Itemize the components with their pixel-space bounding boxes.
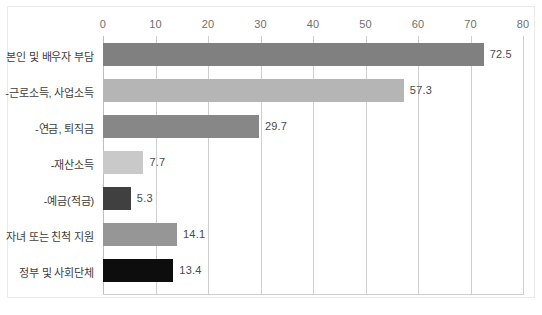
category-label: 자녀 또는 친척 지원	[0, 228, 94, 244]
category-label: -근로소득, 사업소득	[0, 84, 94, 100]
x-tick-label-80: 80	[517, 18, 530, 30]
bar	[103, 259, 173, 282]
category-label: -연금, 퇴직금	[0, 120, 94, 136]
gridline-40	[313, 36, 314, 295]
plot-area	[103, 36, 523, 295]
x-tick-label-50: 50	[359, 18, 372, 30]
x-tick-label-10: 10	[149, 18, 162, 30]
gridline-50	[366, 36, 367, 295]
value-label: 72.5	[490, 48, 512, 60]
bar	[103, 223, 177, 246]
bar	[103, 187, 131, 210]
value-label: 57.3	[410, 84, 432, 96]
value-label: 29.7	[265, 120, 287, 132]
bar	[103, 79, 404, 102]
x-axis-baseline	[103, 294, 524, 295]
gridline-80	[523, 36, 524, 295]
x-tick-label-40: 40	[307, 18, 320, 30]
value-label: 14.1	[183, 228, 205, 240]
category-label: 본인 및 배우자 부담	[0, 48, 94, 64]
gridline-30	[261, 36, 262, 295]
bar	[103, 115, 259, 138]
category-label: -예금(적금)	[0, 192, 94, 208]
category-label: 정부 및 사회단체	[0, 264, 94, 280]
value-label: 7.7	[149, 156, 165, 168]
gridline-20	[208, 36, 209, 295]
x-tick-label-60: 60	[412, 18, 425, 30]
x-tick-label-30: 30	[254, 18, 267, 30]
gridline-60	[418, 36, 419, 295]
x-tick-label-0: 0	[100, 18, 106, 30]
x-tick-label-70: 70	[464, 18, 477, 30]
category-label: -재산소득	[0, 156, 94, 172]
bar-chart: 01020304050607080 본인 및 배우자 부담-근로소득, 사업소득…	[0, 0, 542, 315]
value-label: 13.4	[179, 264, 201, 276]
bar	[103, 151, 143, 174]
gridline-70	[471, 36, 472, 295]
bar	[103, 43, 484, 66]
value-label: 5.3	[137, 192, 153, 204]
x-tick-label-20: 20	[202, 18, 215, 30]
